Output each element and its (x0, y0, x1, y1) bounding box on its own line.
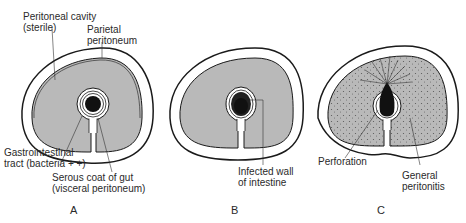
label-line: Serous coat of gut (52, 172, 145, 183)
panel-label-c: C (377, 204, 385, 216)
label-line: Gastrointestinal (4, 147, 86, 158)
label-line: Parietal (87, 24, 137, 35)
label-serous-coat: Serous coat of gut (visceral peritoneum) (52, 172, 145, 194)
label-line: of intestine (238, 177, 294, 188)
label-line: (sterile) (23, 22, 96, 33)
label-general-peritonitis: General peritonitis (402, 170, 445, 192)
label-infected-wall: Infected wall of intestine (238, 166, 294, 188)
label-line: General (402, 170, 445, 181)
label-line: Infected wall (238, 166, 294, 177)
label-line: Peritoneal cavity (23, 11, 96, 22)
panel-c-drawing (318, 46, 458, 165)
label-line: Perforation (318, 156, 367, 167)
panel-b-drawing (170, 48, 303, 165)
label-line: peritoneum (87, 35, 137, 46)
label-perforation: Perforation (318, 156, 367, 167)
panel-a-gut-lumen (85, 96, 101, 112)
label-gastrointestinal-tract: Gastrointestinal tract (bacteria + +) (4, 147, 86, 169)
label-parietal-peritoneum: Parietal peritoneum (87, 24, 137, 46)
label-line: tract (bacteria + +) (4, 158, 86, 169)
panel-label-a: A (70, 204, 77, 216)
label-line: peritonitis (402, 181, 445, 192)
panel-label-b: B (231, 204, 238, 216)
label-line: (visceral peritoneum) (52, 183, 145, 194)
label-peritoneal-cavity: Peritoneal cavity (sterile) (23, 11, 96, 33)
